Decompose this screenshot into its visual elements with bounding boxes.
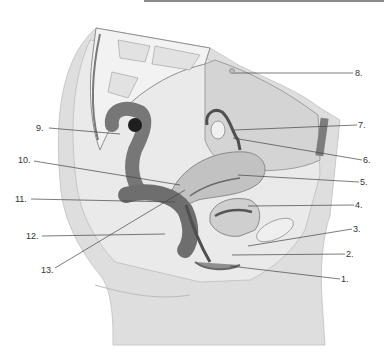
label-10: 10. [18,156,31,165]
label-4: 4. [355,201,363,210]
pelvis-illustration [0,0,384,355]
label-3: 3. [353,225,361,234]
bladder [210,199,260,237]
label-7: 7. [358,121,366,130]
label-11: 11. [15,195,27,204]
label-9: 9. [36,124,44,133]
label-5: 5. [360,178,368,187]
label-12: 12. [26,232,39,241]
label-2: 2. [346,250,354,259]
label-13: 13. [41,266,54,275]
umbilicus-marker [230,69,235,74]
colon-lumen [128,118,142,132]
label-6: 6. [363,156,371,165]
ovary [211,121,225,139]
label-1: 1. [341,275,349,284]
label-8: 8. [355,69,363,78]
